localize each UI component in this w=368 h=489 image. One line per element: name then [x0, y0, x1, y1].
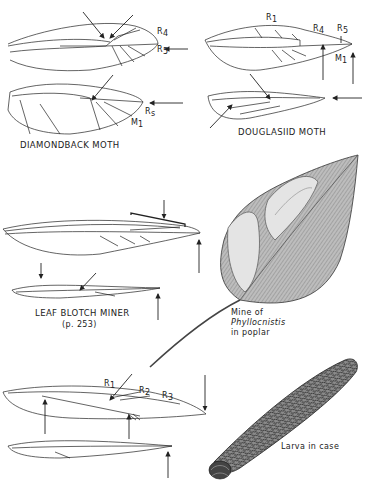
bottom-forewing [3, 386, 206, 420]
diamondback-hindwing [8, 84, 143, 134]
caption-diamondback-moth: DIAMONDBACK MOTH [20, 140, 120, 150]
caption-mine-line2: Phyllocnistis [231, 318, 286, 328]
svg-text:1: 1 [342, 56, 347, 65]
svg-text:5: 5 [163, 47, 168, 56]
caption-larva-in-case: Larva in case [281, 442, 339, 452]
douglasiid-hindwing [208, 92, 325, 119]
svg-text:5: 5 [343, 26, 348, 35]
svg-text:1: 1 [272, 15, 277, 24]
svg-text:M: M [335, 54, 342, 63]
svg-text:1: 1 [110, 381, 115, 390]
caption-leaf-blotch-miner: LEAF BLOTCH MINER [35, 308, 129, 318]
douglasiid-forewing [205, 25, 352, 70]
svg-text:4: 4 [319, 26, 324, 35]
svg-text:4: 4 [163, 29, 168, 38]
leaf-blotch-miner-hindwing [12, 285, 160, 298]
caption-douglasiid-moth: DOUGLASIID MOTH [238, 127, 326, 137]
svg-text:3: 3 [168, 393, 173, 402]
svg-text:M: M [131, 118, 138, 127]
svg-text:1: 1 [138, 120, 143, 129]
caption-page-ref: (p. 253) [62, 320, 97, 330]
bottom-hindwing [8, 441, 172, 458]
caption-mine-line3: in poplar [231, 328, 270, 338]
leaf-blotch-miner-forewing [3, 220, 200, 255]
diamondback-forewing [8, 23, 158, 70]
svg-text:s: s [151, 109, 155, 118]
caption-mine-line1: Mine of [231, 308, 263, 318]
larva-case [209, 359, 357, 479]
illustration-plate: R4 R5 Rs M1 R1 R4 R5 M1 [0, 0, 368, 489]
svg-text:2: 2 [145, 388, 150, 397]
